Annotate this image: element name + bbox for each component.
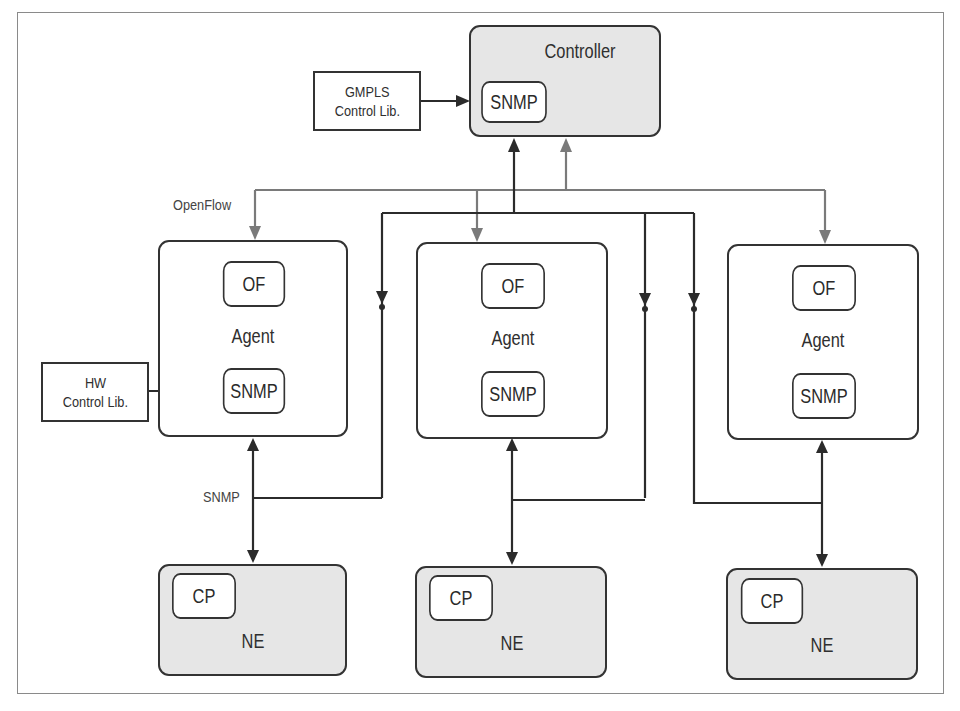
agent-3-title: Agent [771, 329, 874, 352]
agent-1-title: Agent [201, 325, 304, 348]
ne-2-cp-label: CP [450, 587, 473, 610]
hw-label-line2: Control Lib. [62, 392, 127, 411]
agent-2-of-label: OF [502, 275, 525, 298]
agent-1-of-module: OF [223, 261, 285, 307]
controller-snmp-label: SNMP [490, 91, 537, 114]
agent-2-snmp-label: SNMP [489, 383, 536, 406]
gmpls-label-line2: Control Lib. [334, 101, 399, 120]
ne-3-title: NE [789, 634, 855, 657]
ne-2-cp-module: CP [429, 575, 493, 621]
ne-2-title: NE [479, 632, 545, 655]
agent-2-of-module: OF [481, 263, 545, 309]
agent-3-of-label: OF [813, 277, 836, 300]
agent-1-snmp-module: SNMP [223, 368, 285, 414]
hw-label-line1: HW [84, 373, 105, 392]
hw-control-lib-box: HW Control Lib. [41, 362, 149, 422]
agent-3-snmp-module: SNMP [792, 373, 856, 419]
ne-3-cp-label: CP [761, 590, 784, 613]
snmp-edge-label: SNMP [203, 488, 240, 505]
openflow-links [255, 150, 825, 234]
agent-3-of-module: OF [792, 265, 856, 311]
ne-3-cp-module: CP [741, 578, 803, 624]
ne-1-title: NE [220, 630, 286, 653]
controller-title: Controller [514, 40, 645, 63]
ne-1-cp-label: CP [193, 585, 216, 608]
agent-2-title: Agent [461, 327, 564, 350]
agent-3-snmp-label: SNMP [800, 385, 847, 408]
agent-1-of-label: OF [243, 273, 266, 296]
agent-2-snmp-module: SNMP [481, 371, 545, 417]
openflow-edge-label: OpenFlow [173, 196, 231, 213]
controller-snmp-module: SNMP [481, 81, 547, 123]
gmpls-label-line1: GMPLS [345, 82, 390, 101]
ne-1-cp-module: CP [172, 573, 236, 619]
gmpls-control-lib-box: GMPLS Control Lib. [313, 71, 421, 131]
agent-1-snmp-label: SNMP [230, 380, 277, 403]
